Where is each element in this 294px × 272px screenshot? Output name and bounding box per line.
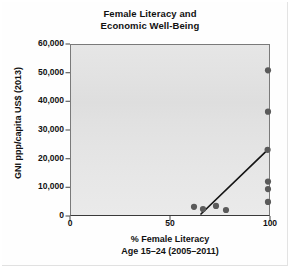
data-point	[191, 204, 197, 210]
data-point	[265, 109, 271, 115]
plot-graphics	[70, 44, 270, 216]
y-tick-label: 20,000	[38, 153, 64, 163]
data-point	[213, 203, 219, 209]
y-axis-title: GNI ppp/capita US$ (2013)	[13, 43, 23, 203]
data-point	[265, 186, 271, 192]
y-tick-label: 10,000	[38, 181, 64, 191]
x-axis-title-line-2: Age 15–24 (2005–2011)	[60, 245, 280, 257]
y-tick-label: 60,000	[38, 38, 64, 48]
x-axis-title-line-1: % Female Literacy	[60, 233, 280, 245]
x-axis-title: % Female Literacy Age 15–24 (2005–2011)	[60, 233, 280, 257]
trend-line	[201, 150, 268, 214]
x-tick-label: 0	[55, 218, 85, 228]
data-point	[265, 67, 271, 73]
x-tick-label: 50	[155, 218, 185, 228]
chart-title: Female Literacy and Economic Well-Being	[60, 8, 240, 32]
data-point	[200, 206, 206, 212]
data-point	[265, 199, 271, 205]
x-axis-tick-labels: 050100	[0, 218, 294, 234]
x-tick-label: 100	[255, 218, 285, 228]
data-point	[265, 179, 271, 185]
chart-figure: Female Literacy and Economic Well-Being …	[0, 0, 294, 272]
data-point	[265, 147, 271, 153]
data-point-group	[191, 67, 271, 213]
y-tick-label: 50,000	[38, 67, 64, 77]
y-tick-label: 40,000	[38, 95, 64, 105]
data-point	[223, 207, 229, 213]
y-tick-label: 30,000	[38, 124, 64, 134]
chart-title-line-2: Economic Well-Being	[101, 20, 200, 31]
chart-title-line-1: Female Literacy and	[103, 8, 196, 19]
